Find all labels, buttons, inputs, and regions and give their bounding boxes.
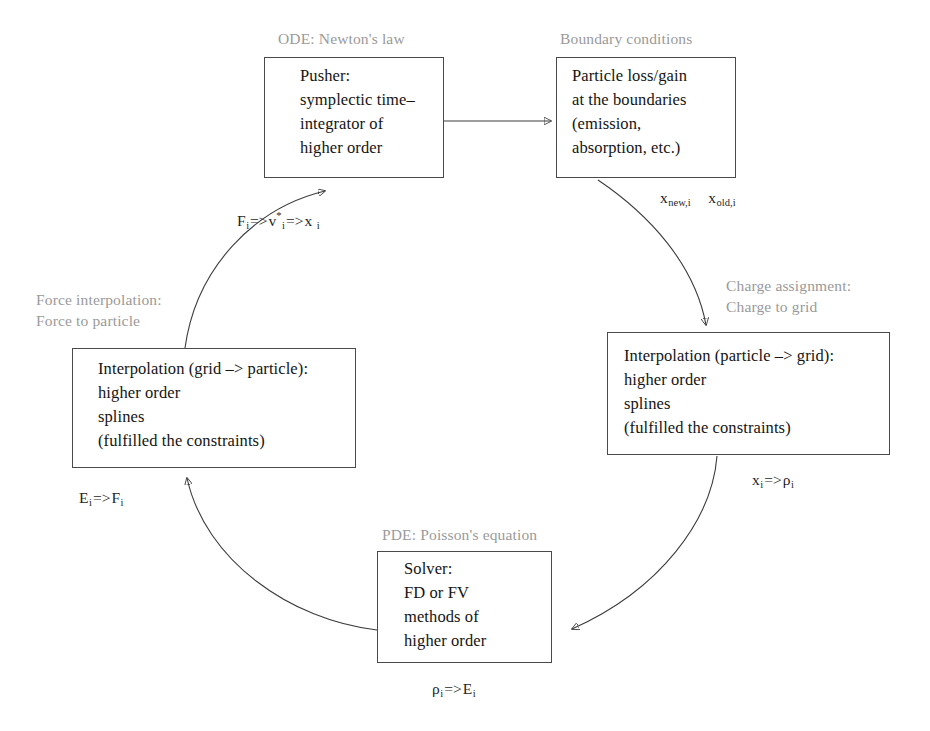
edge-label-charge-out: xi=>ρi [752,470,794,491]
edge-label-e-solver: E [463,680,472,697]
edge-label-F-sub: i [246,220,249,231]
diagram-canvas: ODE: Newton's law Pusher: symplectic tim… [0,0,930,731]
box-force-interpolation-text: Interpolation (grid –> particle): higher… [98,357,366,453]
edge-label-rho-solver-sub: i [440,688,443,699]
edge-label-force-op: => [92,489,111,506]
edge-label-x-new-sub: new,i [668,197,691,208]
edge-label-x-i: x [752,471,760,488]
edge-label-boundary-out: xnew,i xold,i [660,188,736,209]
edge-label-e-solver-sub: i [472,688,475,699]
edge-label-rho-solver: ρ [432,680,440,697]
edge-label-x: x [304,212,312,229]
edge-label-v-sup: * [276,210,281,221]
edge-label-x-old: x [708,189,716,206]
edge-label-op1: => [249,212,268,229]
caption-force-interpolation: Force interpolation: Force to particle [36,289,162,331]
box-solver-text: Solver: FD or FV methods of higher order [404,557,554,653]
edge-label-x-i-sub: i [760,479,763,490]
arrow-charge-to-solver [572,456,717,629]
edge-label-v-sub: i [282,220,285,231]
edge-label-solver-op: => [443,680,462,697]
edge-label-op2: => [285,212,304,229]
edge-label-e-i-sub: i [88,497,91,508]
caption-pde-poissons-equation: PDE: Poisson's equation [382,524,537,545]
edge-label-x-sub: i [316,220,319,231]
edge-label-force-out: Ei=>Fi [79,488,123,509]
edge-label-force-to-pusher: Fi=>v*i=>xi [237,211,320,232]
box-boundary-conditions-text: Particle loss/gain at the boundaries (em… [572,64,742,160]
arrow-solver-to-force [187,478,377,630]
caption-ode-newtons-law: ODE: Newton's law [278,28,405,49]
edge-label-x-old-sub: old,i [716,197,735,208]
caption-boundary-conditions: Boundary conditions [560,28,692,49]
edge-label-rho-i-sub: i [790,479,793,490]
edge-label-charge-op: => [763,471,782,488]
box-pusher-text: Pusher: symplectic time– integrator of h… [300,64,450,160]
edge-label-x-new: x [660,189,668,206]
edge-label-solver-out: ρi=>Ei [432,679,476,700]
edge-label-f-i-sub: i [120,497,123,508]
edge-label-f-i: F [111,489,120,506]
edge-label-F: F [237,212,246,229]
box-charge-assignment-text: Interpolation (particle –> grid): higher… [624,344,894,440]
caption-charge-assignment: Charge assignment: Charge to grid [726,275,851,317]
